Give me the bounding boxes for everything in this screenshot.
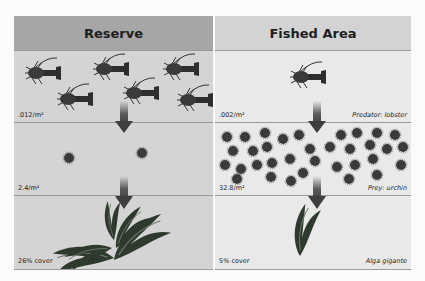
down-arrow-icon: [115, 176, 133, 209]
fished-panel: Fished Area .002/m² Predator: lobster 32…: [215, 16, 411, 268]
reserve-panel: Reserve .012/m² 2.4/m² 26: [14, 16, 213, 268]
down-arrow-icon: [308, 176, 326, 209]
fished-arrows: [215, 16, 411, 268]
down-arrow-icon: [308, 101, 326, 133]
reserve-arrows: [14, 16, 213, 268]
down-arrow-icon: [115, 101, 133, 133]
